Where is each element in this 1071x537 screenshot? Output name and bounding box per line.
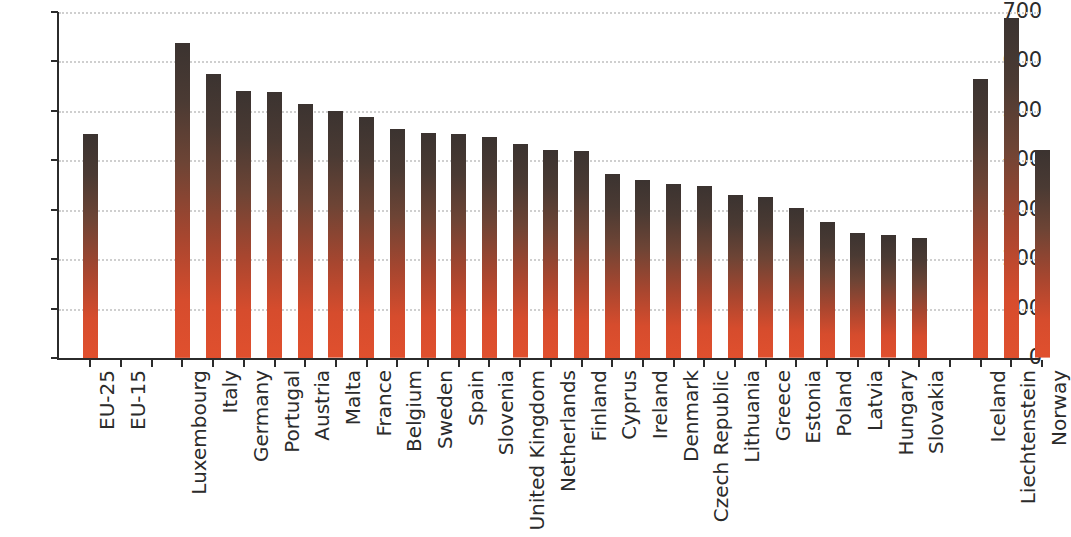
- x-tick-mark: [826, 360, 828, 367]
- bar[interactable]: [359, 117, 374, 358]
- category-label[interactable]: United Kingdom: [527, 370, 547, 531]
- y-tick-mark-500: [51, 110, 58, 112]
- category-label[interactable]: Ireland: [650, 370, 670, 439]
- bar[interactable]: [267, 92, 282, 358]
- category-label-text: Norway: [1049, 370, 1069, 446]
- category-label[interactable]: Lithuania: [742, 370, 762, 463]
- category-label[interactable]: Slovenia: [496, 370, 516, 455]
- category-label-text: EU-25: [97, 370, 117, 430]
- bar[interactable]: [451, 134, 466, 358]
- category-label-text: Belgium: [404, 370, 424, 452]
- y-tick-mark-600: [51, 60, 58, 62]
- bar[interactable]: [605, 174, 620, 358]
- bar[interactable]: [1035, 150, 1050, 358]
- x-tick-mark: [458, 360, 460, 367]
- bar[interactable]: [175, 43, 190, 358]
- category-label[interactable]: Belgium: [404, 370, 424, 452]
- category-label[interactable]: Iceland: [988, 370, 1008, 442]
- bar[interactable]: [236, 91, 251, 358]
- category-label[interactable]: Slovakia: [926, 370, 946, 454]
- bar[interactable]: [574, 151, 589, 358]
- bar[interactable]: [328, 111, 343, 358]
- y-tick-mark-100: [51, 308, 58, 310]
- x-tick-mark: [673, 360, 675, 367]
- category-label[interactable]: Malta: [343, 370, 363, 425]
- x-tick-mark: [611, 360, 613, 367]
- category-label-text: Netherlands: [558, 370, 578, 492]
- category-label[interactable]: Poland: [834, 370, 854, 437]
- category-label-text: Poland: [834, 370, 854, 437]
- x-tick-mark: [212, 360, 214, 367]
- bar[interactable]: [728, 195, 743, 358]
- bar[interactable]: [912, 238, 927, 358]
- category-label-text: Sweden: [435, 370, 455, 449]
- y-tick-mark-400: [51, 159, 58, 161]
- category-label[interactable]: EU-15: [128, 370, 148, 430]
- category-label[interactable]: EU-25: [97, 370, 117, 430]
- category-label[interactable]: Hungary: [896, 370, 916, 455]
- category-label[interactable]: Italy: [220, 370, 240, 413]
- bar[interactable]: [206, 74, 221, 358]
- bar[interactable]: [635, 180, 650, 358]
- x-tick-mark: [642, 360, 644, 367]
- category-label[interactable]: Spain: [466, 370, 486, 426]
- bar[interactable]: [881, 235, 896, 358]
- plot-area: [59, 12, 1039, 358]
- category-label-text: Italy: [220, 370, 240, 413]
- x-tick-mark: [949, 360, 951, 367]
- y-tick-mark-200: [51, 258, 58, 260]
- category-label[interactable]: Luxembourg: [189, 370, 209, 495]
- bar[interactable]: [758, 197, 773, 358]
- category-label[interactable]: Norway: [1049, 370, 1069, 446]
- x-axis-line: [57, 358, 1039, 360]
- category-label-text: Hungary: [896, 370, 916, 455]
- y-tick-mark-300: [51, 209, 58, 211]
- bar[interactable]: [666, 184, 681, 358]
- x-tick-mark: [488, 360, 490, 367]
- x-tick-mark: [765, 360, 767, 367]
- category-label[interactable]: Denmark: [681, 370, 701, 462]
- category-label-text: France: [374, 370, 394, 437]
- bar[interactable]: [298, 104, 313, 358]
- category-label-text: Cyprus: [619, 370, 639, 440]
- x-tick-mark: [1041, 360, 1043, 367]
- bar[interactable]: [820, 222, 835, 358]
- category-label[interactable]: Liechtenstein: [1018, 370, 1038, 504]
- category-label-text: Malta: [343, 370, 363, 425]
- bar[interactable]: [1004, 18, 1019, 358]
- x-tick-mark: [366, 360, 368, 367]
- category-label[interactable]: Latvia: [865, 370, 885, 431]
- bar[interactable]: [973, 79, 988, 358]
- category-label-text: Lithuania: [742, 370, 762, 463]
- category-label[interactable]: Finland: [589, 370, 609, 441]
- category-label-text: Ireland: [650, 370, 670, 439]
- x-tick-mark: [274, 360, 276, 367]
- x-tick-mark: [89, 360, 91, 367]
- category-label[interactable]: Germany: [251, 370, 271, 462]
- x-tick-mark: [980, 360, 982, 367]
- category-label[interactable]: Sweden: [435, 370, 455, 449]
- category-label-text: Slovakia: [926, 370, 946, 454]
- category-label[interactable]: France: [374, 370, 394, 437]
- x-tick-mark: [795, 360, 797, 367]
- x-tick-mark: [734, 360, 736, 367]
- category-label[interactable]: Netherlands: [558, 370, 578, 492]
- bar[interactable]: [390, 129, 405, 358]
- category-label[interactable]: Czech Republic: [711, 370, 731, 522]
- category-label[interactable]: Portugal: [282, 370, 302, 453]
- bar[interactable]: [697, 186, 712, 358]
- category-label[interactable]: Greece: [773, 370, 793, 441]
- x-tick-mark: [304, 360, 306, 367]
- category-label[interactable]: Estonia: [803, 370, 823, 444]
- x-tick-mark: [181, 360, 183, 367]
- bar[interactable]: [83, 134, 98, 358]
- bar[interactable]: [543, 150, 558, 358]
- bar[interactable]: [789, 208, 804, 358]
- bar[interactable]: [421, 133, 436, 358]
- bar[interactable]: [850, 233, 865, 358]
- bar[interactable]: [513, 144, 528, 358]
- category-label[interactable]: Austria: [312, 370, 332, 441]
- x-tick-mark: [918, 360, 920, 367]
- category-label[interactable]: Cyprus: [619, 370, 639, 440]
- bar[interactable]: [482, 137, 497, 358]
